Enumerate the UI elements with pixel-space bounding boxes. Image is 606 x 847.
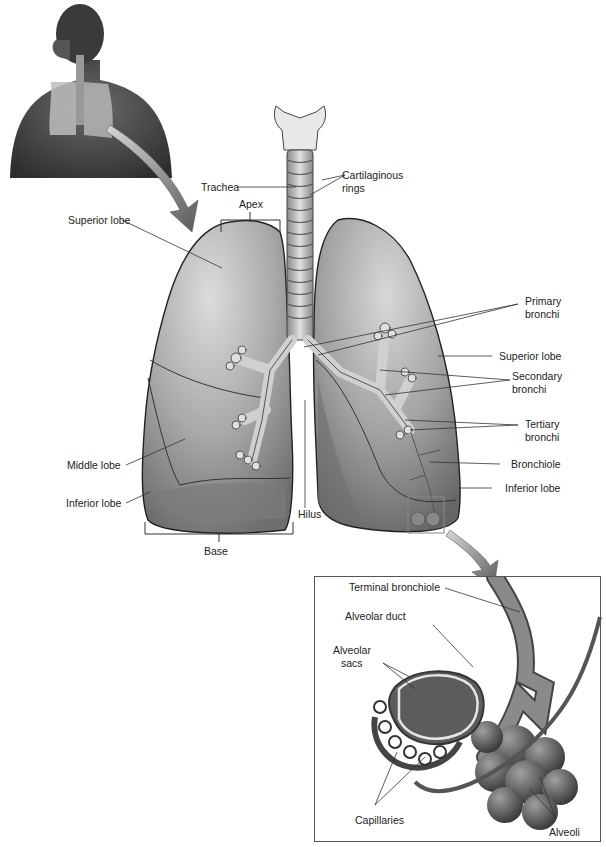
label-primary-bronchi-2: bronchi [525, 308, 559, 320]
label-hilus: Hilus [298, 508, 321, 520]
label-tertiary-bronchi-2: bronchi [525, 431, 559, 443]
label-cartilaginous-rings-1: Cartilaginous [342, 169, 403, 181]
alveolar-sac-capillary-net [374, 671, 484, 767]
label-secondary-bronchi-1: Secondary [512, 370, 562, 382]
label-primary-bronchi-1: Primary [525, 295, 561, 307]
label-alveolar-duct: Alveolar duct [345, 610, 406, 622]
label-alveoli: Alveoli [549, 826, 580, 838]
label-superior-lobe-right: Superior lobe [68, 214, 130, 226]
label-inferior-lobe-left: Inferior lobe [505, 482, 560, 494]
label-secondary-bronchi-2: bronchi [512, 383, 546, 395]
label-inferior-lobe-right: Inferior lobe [66, 497, 121, 509]
label-alveolar-sacs-1: Alveolar [333, 644, 371, 656]
label-apex: Apex [239, 198, 263, 210]
label-terminal-bronchiole: Terminal bronchiole [349, 581, 440, 593]
label-trachea: Trachea [201, 181, 239, 193]
label-cartilaginous-rings-2: rings [342, 182, 365, 194]
label-tertiary-bronchi-1: Tertiary [525, 418, 559, 430]
label-superior-lobe-left: Superior lobe [499, 350, 561, 362]
torso-thumbnail [10, 4, 172, 178]
label-alveolar-sacs-2: sacs [341, 657, 363, 669]
label-bronchiole: Bronchiole [511, 458, 561, 470]
label-base: Base [204, 545, 228, 557]
label-capillaries: Capillaries [355, 814, 404, 826]
label-middle-lobe: Middle lobe [67, 459, 121, 471]
